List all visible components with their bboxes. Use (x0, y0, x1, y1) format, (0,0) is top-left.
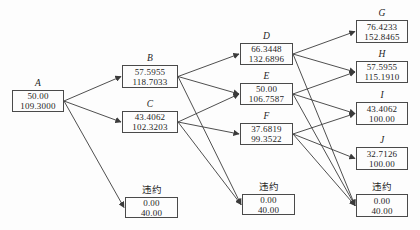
node-D-value-bottom: 132.6896 (249, 54, 284, 64)
node-B-box: 57.5955 118.7033 (122, 65, 178, 88)
node-A: A 50.00 109.3000 (12, 77, 64, 112)
node-I-label: I (356, 89, 408, 101)
node-G-box: 76.4233 152.8465 (356, 20, 408, 43)
node-A-label: A (12, 77, 64, 89)
node-E-value-top: 50.00 (256, 84, 277, 94)
node-G: G 76.4233 152.8465 (356, 7, 408, 43)
node-D-box: 66.3448 132.6896 (240, 43, 293, 65)
node-J-label: J (356, 134, 408, 146)
node-H: H 57.5955 115.1910 (356, 48, 408, 83)
node-J-box: 32.7126 100.00 (356, 147, 408, 170)
node-I-box: 43.4062 100.00 (356, 102, 408, 125)
node-E-box: 50.00 106.7587 (240, 83, 293, 105)
node-A-box: 50.00 109.3000 (12, 90, 64, 112)
node-default-3-value-bottom: 40.00 (371, 206, 392, 216)
node-default-1-value-top: 0.00 (143, 198, 160, 208)
node-C-label: C (122, 98, 178, 110)
node-default-3: 违约 0.00 40.00 (356, 181, 408, 217)
node-default-2-box: 0.00 40.00 (242, 194, 295, 215)
node-default-2-value-top: 0.00 (260, 195, 277, 205)
node-G-value-top: 76.4233 (367, 22, 398, 32)
node-default-1-value-bottom: 40.00 (141, 208, 162, 218)
node-J-value-top: 32.7126 (367, 149, 398, 159)
node-default-3-value-top: 0.00 (374, 196, 391, 206)
node-F-value-bottom: 99.3522 (251, 134, 282, 144)
node-C-value-bottom: 102.3203 (132, 122, 167, 132)
node-J: J 32.7126 100.00 (356, 134, 408, 170)
node-B: B 57.5955 118.7033 (122, 52, 178, 88)
node-J-value-bottom: 100.00 (369, 159, 395, 169)
node-C-box: 43.4062 102.3203 (122, 111, 178, 133)
node-C: C 43.4062 102.3203 (122, 98, 178, 133)
node-H-value-bottom: 115.1910 (364, 72, 399, 82)
node-B-value-bottom: 118.7033 (132, 77, 167, 87)
node-F-value-top: 37.6819 (251, 124, 282, 134)
node-F-label: F (240, 110, 293, 122)
node-G-value-bottom: 152.8465 (364, 32, 399, 42)
node-F-box: 37.6819 99.3522 (240, 123, 293, 145)
node-I-value-top: 43.4062 (367, 104, 398, 114)
node-I-value-bottom: 100.00 (369, 114, 395, 124)
node-default-2-value-bottom: 40.00 (258, 205, 279, 215)
node-B-value-top: 57.5955 (135, 67, 166, 77)
node-default-1-label: 违约 (125, 184, 178, 196)
node-A-value-top: 50.00 (27, 91, 48, 101)
node-B-label: B (122, 52, 178, 64)
node-C-value-top: 43.4062 (135, 112, 166, 122)
node-F: F 37.6819 99.3522 (240, 110, 293, 145)
node-D-value-top: 66.3448 (251, 44, 282, 54)
node-default-1: 违约 0.00 40.00 (125, 184, 178, 218)
node-G-label: G (356, 7, 408, 19)
node-default-1-box: 0.00 40.00 (125, 197, 178, 218)
node-H-label: H (356, 48, 408, 60)
lattice-diagram: A 50.00 109.3000 B 57.5955 118.7033 C 43… (0, 0, 420, 230)
node-H-value-top: 57.5955 (367, 62, 398, 72)
node-I: I 43.4062 100.00 (356, 89, 408, 125)
node-D: D 66.3448 132.6896 (240, 30, 293, 65)
node-default-2: 违约 0.00 40.00 (242, 181, 295, 215)
node-E-label: E (240, 70, 293, 82)
node-default-2-label: 违约 (242, 181, 295, 193)
node-default-3-box: 0.00 40.00 (356, 194, 408, 217)
node-H-box: 57.5955 115.1910 (356, 61, 408, 83)
node-default-3-label: 违约 (356, 181, 408, 193)
node-D-label: D (240, 30, 293, 42)
node-A-value-bottom: 109.3000 (20, 101, 55, 111)
node-E-value-bottom: 106.7587 (249, 94, 284, 104)
node-E: E 50.00 106.7587 (240, 70, 293, 105)
